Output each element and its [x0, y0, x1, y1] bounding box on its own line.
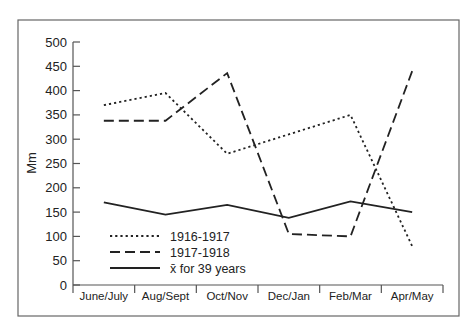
y-tick-label: 250 — [45, 156, 67, 171]
x-category-label: Oct/Nov — [206, 290, 248, 302]
y-tick-label: 350 — [45, 107, 67, 122]
y-tick-label: 450 — [45, 59, 67, 74]
legend-label: 1917-1918 — [170, 246, 230, 260]
legend-label: x̄ for 39 years — [170, 262, 246, 276]
y-tick-label: 50 — [53, 253, 67, 268]
y-tick-label: 300 — [45, 132, 67, 147]
x-category-label: Feb/Mar — [329, 290, 372, 302]
y-axis-label: Mm — [24, 152, 39, 174]
x-category-label: Apr/May — [391, 290, 434, 302]
y-tick-label: 150 — [45, 205, 67, 220]
legend-label: 1916-1917 — [170, 230, 230, 244]
y-tick-label: 200 — [45, 180, 67, 195]
y-tick-label: 100 — [45, 229, 67, 244]
line-chart: 050100150200250300350400450500 June/July… — [0, 0, 473, 334]
x-category-label: Dec/Jan — [268, 290, 310, 302]
y-axis: 050100150200250300350400450500 — [45, 35, 80, 293]
y-tick-label: 500 — [45, 35, 67, 50]
x-axis: June/JulyAug/SeptOct/NovDec/JanFeb/MarAp… — [73, 285, 443, 302]
y-tick-label: 400 — [45, 83, 67, 98]
x-category-label: Aug/Sept — [142, 290, 190, 302]
series-line-dotted — [104, 93, 412, 246]
x-category-label: June/July — [80, 290, 129, 302]
series-group — [104, 71, 412, 246]
legend: 1916-19171917-1918x̄ for 39 years — [110, 230, 246, 276]
series-line-solid — [104, 201, 412, 218]
y-tick-label: 0 — [60, 278, 67, 293]
